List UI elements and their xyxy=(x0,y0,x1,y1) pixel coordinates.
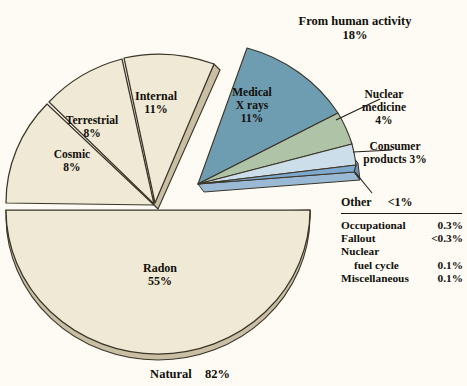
group-label-natural: Natural 82% xyxy=(150,367,230,381)
legend-name-nuclear: Nuclear xyxy=(341,245,379,258)
slice-label-radon-name: Radon xyxy=(143,262,177,275)
slice-label-cosmic-name: Cosmic xyxy=(54,148,90,161)
slice-label-consumer-products: Consumer products 3% xyxy=(363,140,426,166)
legend-row-fallout: Fallout <0.3% xyxy=(341,232,463,245)
slice-label-radon-percent: 55% xyxy=(143,275,177,288)
slice-label-nuclear-medicine: Nuclear medicine 4% xyxy=(362,88,406,127)
slice-label-other-percent: <1% xyxy=(388,195,413,209)
slice-label-medical-percent: 11% xyxy=(232,112,272,125)
slice-label-other: Other<1% xyxy=(341,196,413,209)
other-breakdown-legend: Occupational 0.3% Fallout <0.3% Nuclear … xyxy=(341,219,463,285)
slice-label-terrestrial: Terrestrial 8% xyxy=(66,114,118,140)
slice-label-terrestrial-name: Terrestrial xyxy=(66,114,118,127)
slice-label-cosmic-percent: 8% xyxy=(54,161,90,174)
legend-row-fuel-cycle: fuel cycle 0.1% xyxy=(341,259,463,272)
slice-label-internal-name: Internal xyxy=(135,90,177,103)
slice-label-medical-xrays: Medical X rays 11% xyxy=(232,86,272,125)
slice-label-cosmic: Cosmic 8% xyxy=(54,148,90,174)
legend-value-miscellaneous: 0.1% xyxy=(438,272,463,285)
slice-label-internal: Internal 11% xyxy=(135,90,177,117)
legend-value-fallout: <0.3% xyxy=(431,232,463,245)
legend-divider-rule xyxy=(341,213,462,214)
radiation-exposure-pie-chart-figure: From human activity 18% Internal 11% Ter… xyxy=(0,0,467,386)
slice-label-consumer-line1: Consumer xyxy=(363,140,426,153)
group-label-natural-name: Natural xyxy=(150,367,192,381)
slice-label-medical-line1: Medical xyxy=(232,86,272,99)
legend-row-occupational: Occupational 0.3% xyxy=(341,219,463,232)
slice-label-terrestrial-percent: 8% xyxy=(66,127,118,140)
group-title-text: From human activity xyxy=(299,14,412,28)
group-title-human-activity: From human activity 18% xyxy=(299,14,412,42)
legend-row-miscellaneous: Miscellaneous 0.1% xyxy=(341,272,463,285)
group-title-percent: 18% xyxy=(299,28,412,42)
slice-label-nucmed-line1: Nuclear xyxy=(362,88,406,101)
leader-line-other xyxy=(355,172,372,193)
slice-label-other-name: Other xyxy=(341,195,372,209)
legend-row-nuclear: Nuclear xyxy=(341,245,463,258)
legend-name-fuel-cycle: fuel cycle xyxy=(341,259,399,272)
legend-name-miscellaneous: Miscellaneous xyxy=(341,272,409,285)
pie-chart-graphic xyxy=(0,0,467,386)
slice-label-consumer-line2: products 3% xyxy=(363,153,426,166)
slice-label-nucmed-line2: medicine xyxy=(362,101,406,114)
slice-label-internal-percent: 11% xyxy=(135,103,177,116)
legend-name-occupational: Occupational xyxy=(341,219,406,232)
legend-name-fallout: Fallout xyxy=(341,232,376,245)
slice-label-medical-line2: X rays xyxy=(232,99,272,112)
slice-label-radon: Radon 55% xyxy=(143,262,177,289)
slice-label-nucmed-percent: 4% xyxy=(362,114,406,127)
group-label-natural-percent: 82% xyxy=(205,367,230,381)
legend-value-fuel-cycle: 0.1% xyxy=(438,259,463,272)
legend-value-occupational: 0.3% xyxy=(438,219,463,232)
